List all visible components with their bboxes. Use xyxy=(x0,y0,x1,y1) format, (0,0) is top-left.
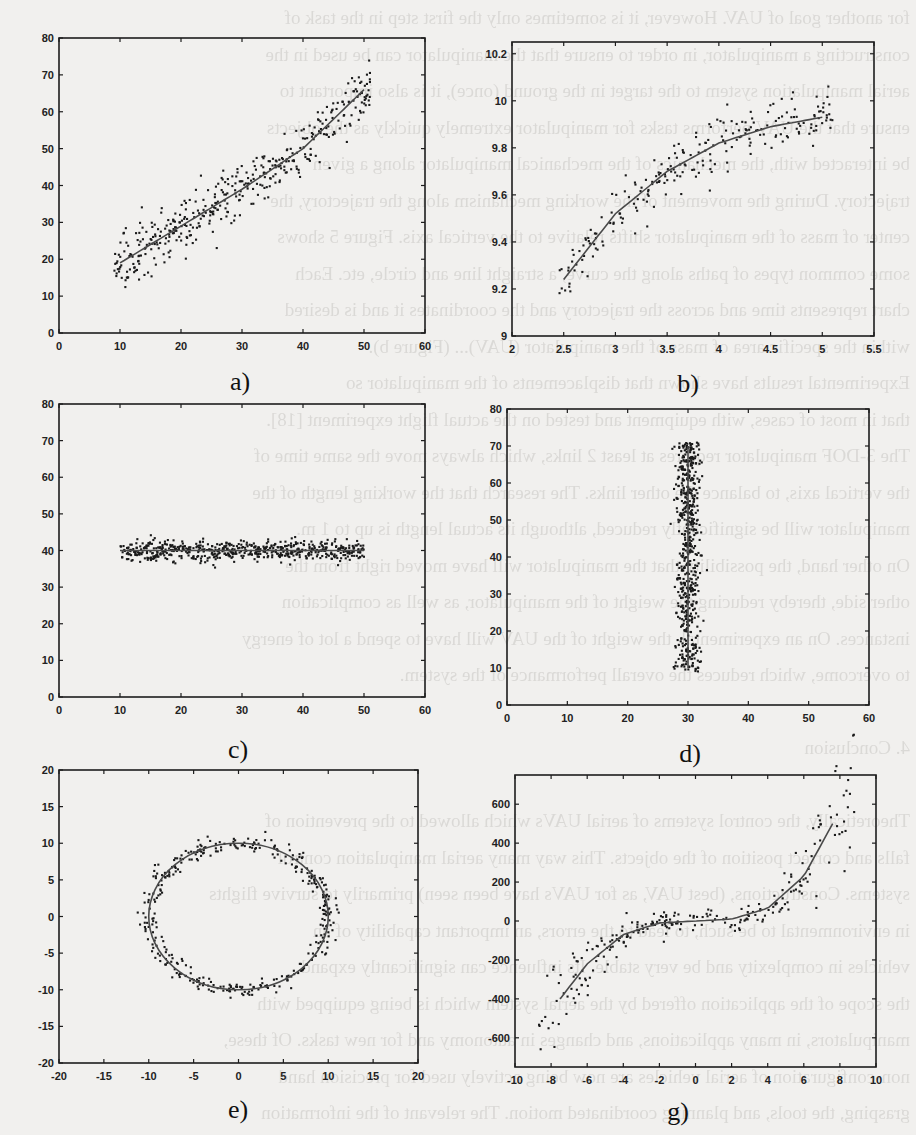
data-point xyxy=(623,941,625,943)
data-point xyxy=(764,143,766,145)
data-point xyxy=(663,941,665,943)
data-point xyxy=(222,178,224,180)
data-point xyxy=(209,840,211,842)
data-point xyxy=(192,547,194,549)
y-tick-label: 10 xyxy=(42,654,54,666)
data-point xyxy=(332,102,334,104)
data-point xyxy=(168,554,170,556)
data-point xyxy=(790,876,792,878)
data-point xyxy=(300,542,302,544)
data-point xyxy=(782,141,784,143)
data-point xyxy=(834,834,836,836)
data-point xyxy=(847,779,849,781)
data-point xyxy=(689,521,691,523)
data-point xyxy=(202,538,204,540)
data-point xyxy=(695,637,697,639)
data-point xyxy=(216,543,218,545)
data-point xyxy=(745,121,747,123)
data-point xyxy=(702,620,704,622)
data-point xyxy=(222,170,224,172)
data-point xyxy=(691,619,693,621)
data-point xyxy=(682,445,684,447)
data-point xyxy=(693,534,695,536)
data-point xyxy=(116,262,118,264)
data-point xyxy=(217,850,219,852)
data-point xyxy=(691,505,693,507)
data-point xyxy=(207,543,209,545)
data-point xyxy=(247,838,249,840)
data-point xyxy=(805,850,807,852)
data-point xyxy=(154,901,156,903)
data-point xyxy=(682,597,684,599)
data-point xyxy=(190,972,192,974)
data-point xyxy=(689,449,691,451)
data-point xyxy=(646,201,648,203)
data-point xyxy=(310,148,312,150)
data-point xyxy=(272,547,274,549)
data-point xyxy=(693,452,695,454)
data-point xyxy=(243,555,245,557)
data-point xyxy=(222,191,224,193)
data-point xyxy=(558,1023,560,1025)
data-point xyxy=(223,194,225,196)
data-point xyxy=(170,961,172,963)
data-point xyxy=(274,857,276,859)
data-point xyxy=(731,120,733,122)
data-point xyxy=(747,918,749,920)
data-point xyxy=(685,630,687,632)
data-point xyxy=(295,541,297,543)
data-point xyxy=(275,991,277,993)
data-point xyxy=(181,220,183,222)
data-point xyxy=(137,551,139,553)
data-point xyxy=(244,991,246,993)
data-point xyxy=(827,86,829,88)
data-point xyxy=(753,122,755,124)
data-point xyxy=(758,903,760,905)
data-point xyxy=(336,108,338,110)
data-point xyxy=(680,193,682,195)
data-point xyxy=(192,242,194,244)
data-point xyxy=(132,559,134,561)
data-point xyxy=(682,149,684,151)
data-point xyxy=(210,855,212,857)
data-point xyxy=(272,158,274,160)
data-point xyxy=(215,847,217,849)
data-point xyxy=(214,546,216,548)
y-tick-label: 70 xyxy=(490,440,502,452)
data-point xyxy=(772,906,774,908)
data-point xyxy=(345,557,347,559)
data-point xyxy=(691,518,693,520)
data-point xyxy=(154,957,156,959)
data-point xyxy=(621,926,623,928)
data-point xyxy=(240,544,242,546)
data-point xyxy=(677,602,679,604)
data-point xyxy=(338,912,340,914)
data-point xyxy=(214,556,216,558)
data-point xyxy=(356,544,358,546)
data-point xyxy=(679,617,681,619)
data-point xyxy=(288,160,290,162)
data-point xyxy=(323,905,325,907)
data-point xyxy=(678,446,680,448)
data-point xyxy=(620,217,622,219)
data-point xyxy=(235,553,237,555)
data-point xyxy=(695,668,697,670)
data-point xyxy=(552,969,554,971)
data-point xyxy=(610,946,612,948)
data-point xyxy=(661,163,663,165)
data-point xyxy=(692,647,694,649)
data-point xyxy=(331,558,333,560)
data-point xyxy=(192,556,194,558)
data-point xyxy=(174,226,176,228)
data-point xyxy=(339,127,341,129)
data-point xyxy=(692,600,694,602)
data-point xyxy=(301,871,303,873)
data-point xyxy=(230,222,232,224)
data-point xyxy=(195,189,197,191)
data-point xyxy=(699,539,701,541)
data-point xyxy=(828,113,830,115)
data-point xyxy=(682,608,684,610)
data-point xyxy=(303,128,305,130)
data-point xyxy=(312,557,314,559)
data-point xyxy=(157,556,159,558)
